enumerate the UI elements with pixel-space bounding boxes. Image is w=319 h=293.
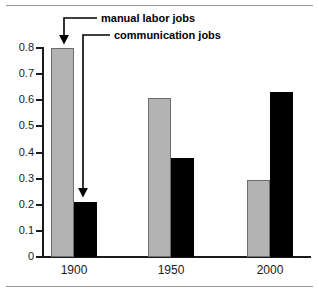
annotation-label-manual-labor-jobs: manual labor jobs [101,12,195,24]
y-axis-tick [36,99,42,101]
y-axis-tick-label: 0.3 [19,173,34,184]
bar-2000-communication-jobs [270,92,293,257]
bar-1950-communication-jobs [171,158,194,257]
y-axis-tick-label: 0 [28,251,34,262]
y-axis-tick-label: 0.7 [19,68,34,79]
y-axis-tick-label: 0.8 [19,42,34,53]
chart-figure: 00.10.20.30.40.50.60.70.8 190019502000 m… [0,0,319,293]
y-axis-tick [36,152,42,154]
y-axis-tick [36,204,42,206]
y-axis-tick-label: 0.5 [19,120,34,131]
y-axis-tick-label: 0.2 [19,199,34,210]
y-axis-tick [36,47,42,49]
bar-1900-communication-jobs [74,202,97,257]
bar-1950-manual-labor-jobs [148,98,171,257]
y-axis-tick [36,230,42,232]
bar-2000-manual-labor-jobs [247,180,270,257]
plot-area: 00.10.20.30.40.50.60.70.8 190019502000 [0,0,319,293]
y-axis-tick [36,178,42,180]
x-axis-label-1950: 1950 [136,263,206,277]
annotation-label-communication-jobs: communication jobs [114,29,221,41]
y-axis-tick-label: 0.4 [19,147,34,158]
x-axis-label-2000: 2000 [235,263,305,277]
bar-1900-manual-labor-jobs [51,48,74,257]
x-axis-label-1900: 1900 [39,263,109,277]
y-axis-tick [36,125,42,127]
y-axis-tick [36,256,42,258]
y-axis-line [42,47,44,258]
y-axis-tick [36,73,42,75]
y-axis-tick-label: 0.6 [19,94,34,105]
y-axis-tick-label: 0.1 [19,225,34,236]
